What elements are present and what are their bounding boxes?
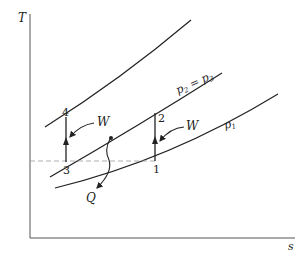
ts-diagram: T s W W Q 4 3 2 1 p2 = p3 p1 xyxy=(0,0,303,256)
point-3-label: 3 xyxy=(63,164,70,177)
arrow-up-1-2 xyxy=(152,136,158,144)
work-label-left: W xyxy=(97,115,111,129)
point-2-label: 2 xyxy=(158,112,165,125)
t-axis-label: T xyxy=(18,11,27,25)
point-4-label: 4 xyxy=(62,106,69,119)
heat-label: Q xyxy=(86,191,96,205)
work-arrow-right xyxy=(160,127,184,141)
work-label-right: W xyxy=(186,119,200,133)
p2-p3-label: p2 = p3 xyxy=(174,69,216,98)
arrow-up-3-4 xyxy=(63,137,69,145)
s-axis-label: s xyxy=(288,240,294,253)
work-arrow-left xyxy=(70,123,94,137)
point-1-label: 1 xyxy=(153,163,160,176)
axes: T s xyxy=(18,11,295,253)
